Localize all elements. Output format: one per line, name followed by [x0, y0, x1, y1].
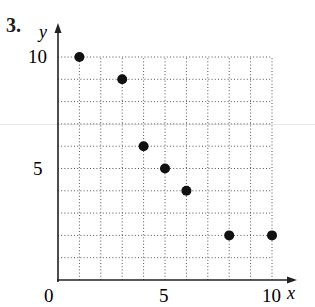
data-point: [117, 74, 127, 84]
y-axis-arrow-icon: [55, 23, 62, 33]
axes: [55, 23, 298, 284]
x-tick-label-10: 10: [262, 285, 281, 306]
data-point: [224, 230, 234, 240]
y-tick-label-5: 5: [33, 158, 43, 179]
data-point: [74, 52, 84, 62]
data-point: [267, 230, 277, 240]
data-point: [181, 186, 191, 196]
data-point: [160, 164, 170, 174]
x-tick-label-5: 5: [159, 285, 169, 306]
data-point: [139, 141, 149, 151]
y-tick-label-10: 10: [28, 46, 47, 67]
scatter-plot: y x 10 5 0 5 10: [0, 0, 315, 307]
axis-labels: y x 10 5 0 5 10: [28, 22, 295, 306]
data-points: [74, 52, 277, 240]
y-axis-label: y: [37, 22, 47, 42]
x-axis-label: x: [286, 283, 295, 303]
x-tick-label-0: 0: [44, 285, 54, 306]
